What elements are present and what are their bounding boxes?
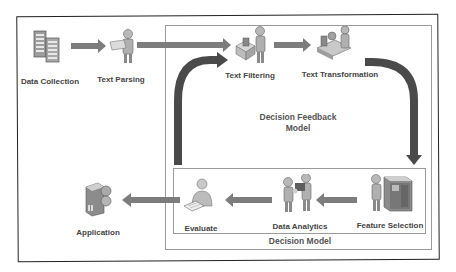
node-label-text-filtering: Text Filtering — [225, 71, 275, 80]
person-reading-document-icon — [108, 28, 138, 64]
node-label-data-collection: Data Collection — [21, 77, 79, 86]
arrow-feature-to-analytics — [316, 193, 357, 207]
arrow-analytics-to-evaluate — [225, 193, 272, 207]
node-label-feature-selection: Feature Selection — [357, 221, 424, 230]
machinery-operator-icon — [315, 26, 355, 62]
node-label-evaluate: Evaluate — [185, 224, 218, 233]
arrow-collection-to-parsing — [71, 39, 106, 53]
arrows-layer — [0, 0, 456, 272]
arrow-filtering-to-transformation — [274, 38, 311, 52]
node-label-text-parsing: Text Parsing — [97, 75, 144, 84]
server-rack-icon — [32, 29, 62, 63]
arrow-evaluate-to-application — [122, 193, 180, 207]
person-with-paper-icon — [182, 178, 216, 214]
person-at-cabinet-icon — [368, 173, 414, 213]
arrow-feedback-evaluate-to-filtering — [178, 52, 228, 165]
server-globe-icon — [82, 181, 114, 217]
arrow-parsing-to-filtering — [137, 38, 231, 52]
group-label-feedback-line1: Decision Feedback — [259, 112, 336, 122]
person-at-box-icon — [233, 26, 269, 64]
group-label-decision-model: Decision Model — [269, 236, 331, 246]
node-label-text-transformation: Text Transformation — [302, 70, 378, 79]
node-label-data-analytics: Data Analytics — [273, 222, 328, 231]
group-label-feedback-line2: Model — [286, 123, 311, 133]
node-label-application: Application — [76, 228, 120, 237]
two-people-presentation-icon — [280, 174, 316, 214]
